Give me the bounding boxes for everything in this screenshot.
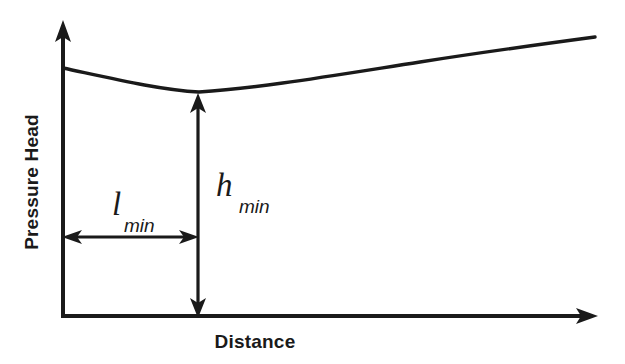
l-min-label: l min [112, 186, 155, 236]
l-min-subscript: min [124, 215, 155, 236]
y-axis [55, 20, 71, 316]
y-axis-label: Pressure Head [21, 114, 42, 250]
pressure-head-curve [63, 37, 595, 92]
h-min-subscript: min [239, 196, 270, 217]
h-min-dimension-arrow [190, 93, 206, 318]
pressure-head-diagram: Pressure Head Distance h min l min [0, 0, 625, 364]
diagram-canvas: Pressure Head Distance h min l min [0, 0, 625, 364]
curve-path [63, 37, 595, 92]
h-min-label: h min [216, 167, 270, 217]
x-axis-label: Distance [215, 331, 296, 352]
h-min-symbol: h [216, 167, 233, 203]
l-min-symbol: l [112, 186, 121, 222]
x-axis [61, 308, 598, 324]
